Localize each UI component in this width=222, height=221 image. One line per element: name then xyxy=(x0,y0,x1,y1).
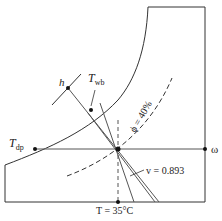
specific-volume-label: v = 0.893 xyxy=(146,165,184,176)
enthalpy-scale-line xyxy=(52,74,81,105)
enthalpy-label: h xyxy=(59,76,65,88)
enthalpy-point xyxy=(66,86,70,90)
dry-bulb-label: T = 35°C xyxy=(96,205,134,216)
dew-point-label: Tdp xyxy=(9,136,24,152)
specific-volume-line xyxy=(100,103,134,202)
dry-bulb-point xyxy=(116,200,120,204)
wet-bulb-line xyxy=(88,113,155,202)
psychrometric-chart: h Twb Tdp ω ϕ = 40% v = 0.893 T = 35°C xyxy=(0,0,222,221)
relative-humidity-label: ϕ = 40% xyxy=(127,99,154,134)
saturation-curve xyxy=(5,7,148,165)
wet-bulb-point xyxy=(89,108,93,112)
dew-point-point xyxy=(33,147,37,151)
humidity-ratio-point xyxy=(203,147,207,151)
wet-bulb-arrow xyxy=(91,90,95,106)
state-point xyxy=(116,147,121,152)
wet-bulb-label: Twb xyxy=(88,71,104,87)
humidity-ratio-label: ω xyxy=(211,143,218,155)
